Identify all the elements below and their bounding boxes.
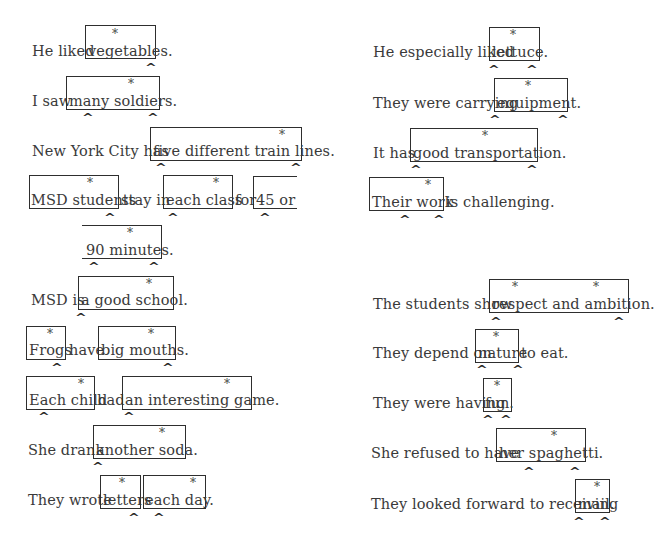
phrase-text: another soda.: [96, 441, 198, 459]
head-asterisk: *: [594, 481, 600, 493]
phrase-text: nature: [478, 344, 527, 362]
boundary-caret: ^: [123, 410, 135, 421]
head-asterisk: *: [190, 477, 196, 489]
head-asterisk: *: [146, 278, 152, 290]
boundary-caret: ^: [512, 363, 524, 374]
head-asterisk: *: [112, 28, 118, 40]
boundary-caret: ^: [88, 260, 100, 271]
boundary-caret: ^: [259, 211, 271, 222]
phrase-text: each class: [166, 191, 243, 209]
boundary-caret: ^: [148, 260, 160, 271]
boundary-caret: ^: [410, 163, 422, 174]
head-asterisk: *: [551, 430, 557, 442]
boundary-caret: ^: [569, 465, 581, 476]
boundary-caret: ^: [433, 213, 445, 224]
boundary-caret: ^: [145, 61, 157, 72]
boundary-caret: ^: [92, 460, 104, 471]
boundary-caret: ^: [599, 515, 611, 526]
boundary-caret: ^: [613, 315, 625, 326]
boundary-caret: ^: [500, 413, 512, 424]
phrase-text: lettuce.: [492, 43, 548, 61]
boundary-caret: ^: [153, 511, 165, 522]
head-asterisk: *: [482, 130, 488, 142]
phrase-text: respect and ambition.: [492, 295, 655, 313]
phrase-text: 90 minutes.: [86, 241, 174, 259]
sentence-text: New York City has: [32, 142, 169, 160]
head-asterisk: *: [525, 80, 531, 92]
boundary-caret: ^: [162, 361, 174, 372]
phrase-text: fun.: [485, 394, 514, 412]
boundary-caret: ^: [399, 213, 411, 224]
phrase-text: Each child: [29, 391, 107, 409]
head-asterisk: *: [119, 477, 125, 489]
head-asterisk: *: [159, 427, 165, 439]
boundary-caret: ^: [573, 515, 585, 526]
boundary-caret: ^: [104, 211, 116, 222]
sentence-text: is challenging.: [446, 193, 555, 211]
phrase-text: equipment.: [497, 94, 581, 112]
sentence-text: It has: [373, 144, 415, 162]
phrase-text: many soldiers.: [69, 92, 177, 110]
phrase-text: Frogs: [29, 341, 72, 359]
boundary-caret: ^: [490, 315, 502, 326]
boundary-caret: ^: [482, 413, 494, 424]
head-asterisk: *: [148, 328, 154, 340]
phrase-text: each day.: [145, 491, 214, 509]
head-asterisk: *: [494, 380, 500, 392]
boundary-caret: ^: [155, 161, 167, 172]
sentence-text: They depend on: [373, 344, 492, 362]
head-asterisk: *: [127, 227, 133, 239]
head-asterisk: *: [224, 378, 230, 390]
head-asterisk: *: [279, 129, 285, 141]
boundary-caret: ^: [290, 161, 302, 172]
head-asterisk: *: [493, 331, 499, 343]
head-asterisk: *: [213, 177, 219, 189]
phrase-text: Their work: [372, 193, 454, 211]
boundary-caret: ^: [488, 63, 500, 74]
sentence-text: MSD is: [31, 291, 85, 309]
boundary-caret: ^: [476, 363, 488, 374]
phrase-text: mail.: [578, 495, 615, 513]
head-asterisk: *: [512, 281, 518, 293]
boundary-caret: ^: [128, 511, 140, 522]
boundary-caret: ^: [526, 163, 538, 174]
head-asterisk: *: [87, 177, 93, 189]
phrase-text: her spaghetti.: [499, 444, 603, 462]
sentence-text: to eat.: [521, 344, 569, 362]
boundary-caret: ^: [82, 111, 94, 122]
phrase-text: big mouths.: [101, 341, 189, 359]
phrase-text: good transportation.: [413, 144, 566, 162]
phrase-text: a good school.: [81, 291, 188, 309]
phrase-text: 45 or: [256, 191, 295, 209]
boundary-caret: ^: [75, 311, 87, 322]
boundary-caret: ^: [523, 465, 535, 476]
boundary-caret: ^: [526, 63, 538, 74]
phrase-text: vegetables.: [88, 42, 173, 60]
sentence-text: had: [97, 391, 125, 409]
phrase-text: five different train lines.: [153, 142, 335, 160]
boundary-caret: ^: [489, 113, 501, 124]
head-asterisk: *: [128, 78, 134, 90]
phrase-text: an interesting game.: [125, 391, 280, 409]
head-asterisk: *: [47, 328, 53, 340]
boundary-caret: ^: [147, 111, 159, 122]
boundary-caret: ^: [38, 410, 50, 421]
boundary-caret: ^: [51, 361, 63, 372]
head-asterisk: *: [510, 29, 516, 41]
head-asterisk: *: [425, 179, 431, 191]
head-asterisk: *: [593, 281, 599, 293]
head-asterisk: *: [78, 378, 84, 390]
boundary-caret: ^: [557, 113, 569, 124]
boundary-caret: ^: [167, 211, 179, 222]
